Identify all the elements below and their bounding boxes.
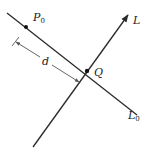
label-Q: Q — [94, 66, 103, 79]
dimension-segment-right — [52, 65, 79, 82]
label-L0: L0 — [127, 109, 140, 123]
point-Q — [85, 69, 89, 73]
point-P0 — [24, 25, 28, 29]
dimension-tick — [12, 37, 19, 46]
line-L — [33, 15, 128, 147]
dimension-segment-left — [16, 42, 40, 57]
label-P0: P0 — [32, 11, 45, 25]
dimension-label-d: d — [42, 55, 49, 68]
diagram-canvas: d P0 Q L L0 — [0, 0, 158, 156]
label-L: L — [132, 14, 140, 27]
